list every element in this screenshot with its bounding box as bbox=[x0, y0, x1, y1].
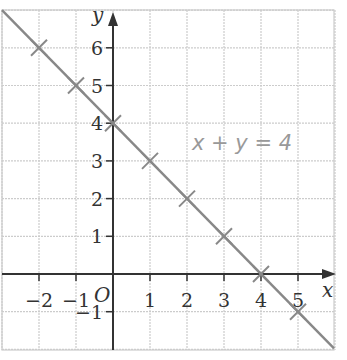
svg-text:1: 1 bbox=[91, 225, 103, 247]
svg-text:3: 3 bbox=[91, 150, 103, 172]
svg-text:5: 5 bbox=[91, 75, 103, 97]
svg-text:−1: −1 bbox=[75, 301, 103, 323]
svg-text:4: 4 bbox=[91, 112, 103, 134]
svg-text:2: 2 bbox=[91, 188, 103, 210]
svg-text:6: 6 bbox=[91, 37, 103, 59]
svg-text:2: 2 bbox=[181, 289, 193, 311]
x-axis-label: x bbox=[322, 278, 333, 302]
svg-text:x + y = 4: x + y = 4 bbox=[191, 131, 292, 155]
svg-text:−2: −2 bbox=[25, 289, 53, 311]
svg-text:1: 1 bbox=[144, 289, 156, 311]
line-chart: xyO −2−112345−1123456 x + y = 4 bbox=[0, 0, 347, 360]
y-axis-label: y bbox=[91, 3, 104, 27]
svg-text:3: 3 bbox=[218, 289, 230, 311]
tick-labels: −2−112345−1123456 bbox=[25, 37, 304, 323]
equation-label: x + y = 4 bbox=[191, 131, 292, 155]
svg-text:4: 4 bbox=[255, 289, 267, 311]
